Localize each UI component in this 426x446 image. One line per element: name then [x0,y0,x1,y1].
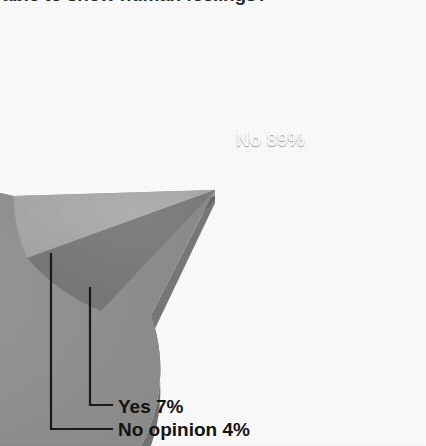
pie-chart-graphic [0,0,426,446]
no-opinion-slice-label: No opinion 4% [118,419,250,441]
yes-slice-label: Yes 7% [118,396,184,418]
no-slice-label: No 89% [236,129,305,151]
pie-chart-figure: able to show human feelings? [0,0,426,446]
